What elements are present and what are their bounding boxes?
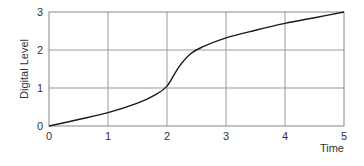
grid-lines: [49, 12, 344, 126]
x-tick-label: 3: [223, 130, 229, 142]
x-tick-label: 5: [341, 130, 347, 142]
y-tick-label: 1: [37, 82, 43, 94]
x-tick-label: 2: [164, 130, 170, 142]
x-tick-label: 0: [46, 130, 52, 142]
x-tick-label: 4: [282, 130, 288, 142]
y-tick-label: 0: [37, 120, 43, 132]
x-tick-labels: 012345: [46, 130, 347, 142]
y-tick-label: 3: [37, 6, 43, 18]
y-tick-label: 2: [37, 44, 43, 56]
plot-frame: [49, 12, 344, 126]
x-tick-label: 1: [105, 130, 111, 142]
data-line: [49, 12, 344, 126]
line-chart: 012345 0123 Time Digital Level: [0, 0, 364, 166]
y-tick-labels: 0123: [37, 6, 43, 132]
x-axis-label: Time: [320, 142, 344, 154]
y-axis-label: Digital Level: [18, 39, 30, 99]
